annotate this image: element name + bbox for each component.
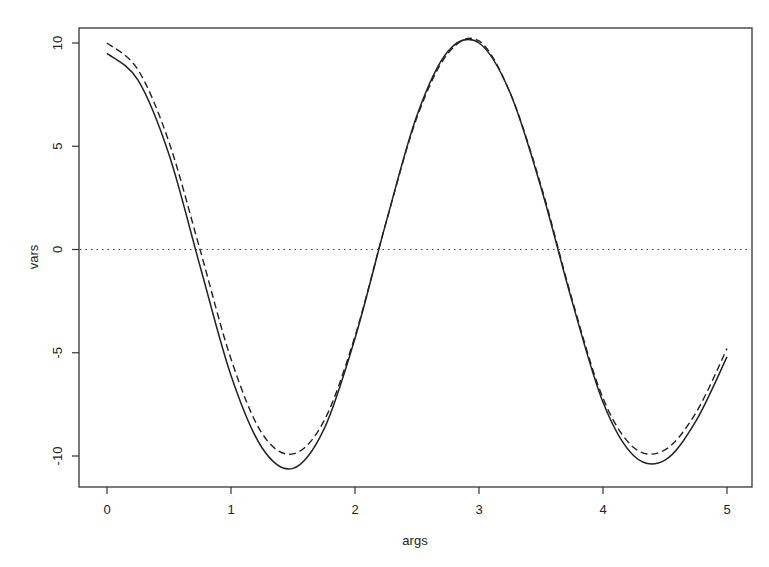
x-tick-label: 0 [103, 502, 110, 517]
x-tick-label: 3 [475, 502, 482, 517]
x-tick-label: 5 [723, 502, 730, 517]
x-tick-label: 1 [227, 502, 234, 517]
x-tick-label: 2 [351, 502, 358, 517]
y-axis-label: vars [26, 244, 41, 269]
y-tick-label: 10 [50, 36, 65, 50]
x-tick-label: 4 [599, 502, 606, 517]
y-tick-label: -10 [50, 447, 65, 466]
chart-background [0, 0, 769, 567]
x-axis-label: args [402, 533, 428, 548]
y-tick-label: 0 [50, 246, 65, 253]
y-tick-label: 5 [50, 143, 65, 150]
line-chart: 012345 -10-50510 args vars [0, 0, 769, 567]
y-tick-label: -5 [50, 347, 65, 359]
